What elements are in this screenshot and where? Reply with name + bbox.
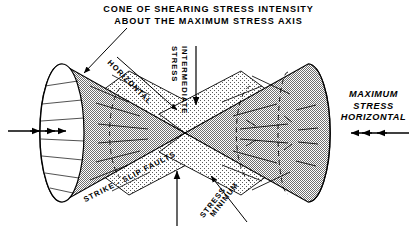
label-intermediate-stress: STRESS bbox=[170, 46, 179, 82]
stress-cone-diagram: CONE OF SHEARING STRESS INTENSITY ABOUT … bbox=[0, 0, 417, 228]
left-cone-rim bbox=[40, 64, 84, 202]
right-cone-rim bbox=[308, 64, 330, 202]
label-maximum-line-2: STRESS bbox=[330, 101, 417, 113]
label-intermediate: INTERMEDIATE bbox=[180, 46, 189, 114]
cone-apex bbox=[184, 132, 186, 134]
label-maximum-line-3: HORIZONTAL bbox=[330, 112, 417, 124]
label-maximum-stress-horizontal: MAXIMUM STRESS HORIZONTAL bbox=[330, 89, 417, 124]
label-maximum-line-1: MAXIMUM bbox=[330, 89, 417, 101]
